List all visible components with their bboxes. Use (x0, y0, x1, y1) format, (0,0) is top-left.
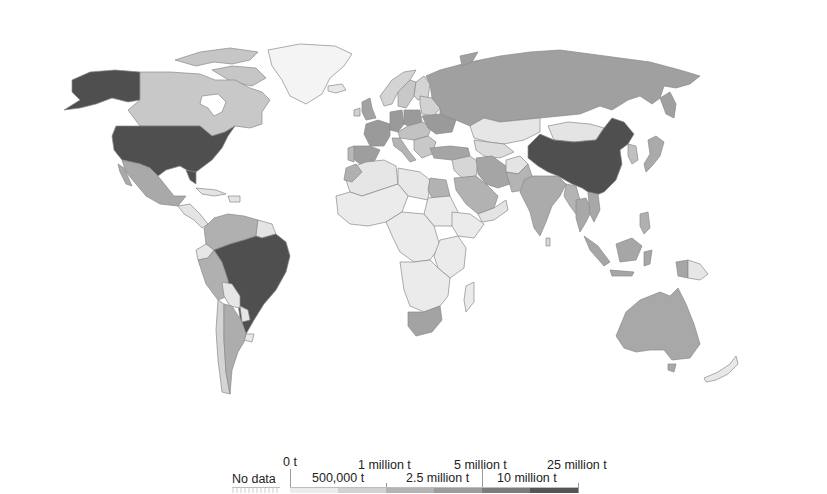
region-sulawesi[interactable] (644, 250, 652, 266)
map-legend: 0 t 1 million t 5 million t 25 million t… (0, 455, 827, 494)
region-florida[interactable] (186, 170, 196, 184)
legend-label-5m: 5 million t (454, 458, 507, 472)
region-germany[interactable] (390, 110, 404, 132)
region-india[interactable] (520, 176, 566, 236)
legend-swatch-bin-6 (530, 487, 578, 493)
legend-swatch-bin-2 (338, 487, 386, 493)
region-syria-iraq[interactable] (452, 156, 478, 178)
region-korea[interactable] (628, 144, 638, 164)
legend-swatch-bin-1 (290, 487, 338, 493)
legend-swatch-no-data (232, 487, 280, 493)
legend-label-25m: 25 million t (547, 458, 607, 472)
region-philippines[interactable] (640, 212, 650, 234)
region-cuba[interactable] (196, 188, 226, 196)
region-madagascar[interactable] (464, 282, 474, 312)
region-hispaniola[interactable] (228, 196, 240, 202)
region-portugal[interactable] (348, 146, 354, 162)
region-alaska[interactable] (64, 70, 140, 110)
region-iceland[interactable] (328, 84, 346, 93)
region-java[interactable] (610, 270, 634, 276)
region-italy[interactable] (392, 138, 416, 162)
region-canada-arctic[interactable] (175, 48, 258, 66)
world-map (0, 0, 827, 440)
region-central-america[interactable] (178, 204, 208, 228)
legend-tick (578, 483, 579, 493)
region-new-guinea-west[interactable] (676, 260, 688, 278)
region-vietnam[interactable] (588, 192, 600, 222)
legend-swatch-bin-4 (434, 487, 482, 493)
region-greenland[interactable] (268, 44, 352, 104)
legend-swatch-bin-5 (482, 487, 530, 493)
region-mongolia[interactable] (548, 122, 604, 142)
legend-label-10m: 10 million t (497, 471, 557, 485)
region-new-zealand[interactable] (704, 356, 738, 382)
legend-label-2-5m: 2.5 million t (406, 471, 469, 485)
region-united-kingdom[interactable] (362, 98, 376, 120)
region-japan[interactable] (644, 136, 664, 172)
region-papua-new-guinea[interactable] (688, 260, 708, 280)
legend-label-1m: 1 million t (358, 458, 411, 472)
legend-label-500k: 500,000 t (312, 471, 364, 485)
region-borneo[interactable] (616, 238, 642, 262)
world-map-svg (0, 0, 827, 440)
region-australia[interactable] (616, 288, 700, 360)
region-sri-lanka[interactable] (546, 238, 550, 246)
region-tasmania[interactable] (668, 364, 676, 372)
region-ireland[interactable] (354, 108, 360, 116)
region-sumatra[interactable] (584, 236, 610, 266)
region-france[interactable] (364, 120, 390, 146)
region-kazakhstan[interactable] (470, 118, 540, 144)
legend-swatch-bin-3 (386, 487, 434, 493)
region-egypt[interactable] (428, 178, 450, 198)
legend-label-no-data: No data (232, 472, 276, 486)
legend-label-0t: 0 t (283, 455, 297, 469)
region-kamchatka[interactable] (660, 92, 676, 118)
